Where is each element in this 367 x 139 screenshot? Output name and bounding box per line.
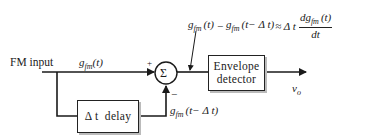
f2-arg: (t− Δ t) bbox=[242, 18, 275, 30]
envelope-line1: Envelope bbox=[214, 60, 260, 73]
delay-output-wire bbox=[137, 86, 166, 116]
fn-arg: (t) bbox=[321, 11, 331, 23]
summer-plus-sign: + bbox=[147, 59, 152, 68]
formula: gfm(t) − gfm(t− Δ t) ≈ Δ t dgfm(t) dt bbox=[188, 12, 332, 40]
signal-delayed-label: gfm(t− Δ t) bbox=[170, 105, 218, 119]
signal-delayed-sub: fm bbox=[176, 110, 184, 119]
fn-sub: fm bbox=[311, 17, 319, 26]
delay-block: Δ t delay bbox=[77, 100, 139, 133]
f1-arg: (t) bbox=[204, 18, 214, 30]
signal-top-label: gfm(t) bbox=[79, 57, 103, 71]
f1-sub: fm bbox=[194, 24, 202, 33]
formula-approx: ≈ Δ t bbox=[275, 21, 296, 32]
signal-delayed-arg: (t− Δ t) bbox=[186, 104, 219, 116]
signal-top-sub: fm bbox=[85, 62, 93, 71]
envelope-line2: detector bbox=[217, 73, 256, 86]
summer-minus-sign: − bbox=[171, 89, 177, 100]
fm-input-label: FM input bbox=[10, 57, 53, 69]
formula-term1: gfm(t) bbox=[188, 19, 214, 33]
output-label: vo bbox=[292, 83, 301, 97]
signal-top-arg: (t) bbox=[93, 56, 103, 68]
fraction-denominator: dt bbox=[311, 28, 320, 40]
formula-term2: gfm(t− Δ t) bbox=[226, 19, 274, 33]
formula-minus: − bbox=[217, 21, 223, 32]
f2-sub: fm bbox=[232, 24, 240, 33]
summer-sigma: Σ bbox=[160, 67, 167, 79]
fraction-numerator: dgfm(t) bbox=[299, 12, 332, 28]
tap-wire bbox=[57, 72, 77, 116]
output-sub: o bbox=[297, 88, 301, 97]
delay-block-label: Δ t delay bbox=[85, 110, 131, 123]
envelope-detector-block: Envelope detector bbox=[208, 55, 265, 91]
formula-fraction: dgfm(t) dt bbox=[299, 12, 332, 40]
